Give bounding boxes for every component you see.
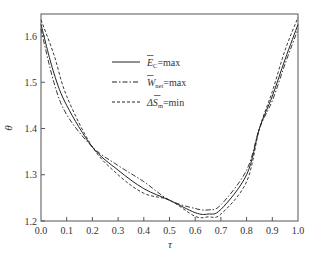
x-tick-label: 0.7 (215, 225, 228, 236)
x-tick-label: 1.0 (292, 225, 305, 236)
x-tick-label: 0.2 (86, 225, 99, 236)
series-line-dashed (41, 18, 298, 218)
x-tick-label: 0.3 (112, 225, 125, 236)
legend-label: ΔSm=min (146, 97, 184, 109)
y-axis: 1.21.31.41.51.6 (25, 31, 46, 227)
y-tick-label: 1.6 (25, 31, 38, 42)
x-tick-label: 0.9 (266, 225, 279, 236)
legend: EC=maxWnet=maxΔSm=min (112, 56, 186, 110)
y-axis-label: θ (2, 125, 14, 131)
x-tick-label: 0.8 (240, 225, 253, 236)
y-tick-label: 1.3 (25, 169, 38, 180)
plot-series (41, 18, 298, 218)
y-tick-label: 1.5 (25, 77, 38, 88)
y-tick-label: 1.4 (25, 123, 38, 134)
x-tick-label: 0.1 (60, 225, 73, 236)
series-line-solid (41, 24, 298, 214)
plot-frame (41, 14, 298, 221)
x-tick-label: 0.0 (35, 225, 48, 236)
legend-label: EC=max (146, 57, 180, 69)
y-tick-label: 1.2 (25, 216, 38, 227)
x-tick-label: 0.4 (138, 225, 151, 236)
x-tick-label: 0.6 (189, 225, 202, 236)
x-tick-label: 0.5 (163, 225, 176, 236)
x-axis: 0.00.10.20.30.40.50.60.70.80.91.0 (35, 217, 305, 236)
legend-label: Wnet=max (147, 77, 186, 89)
chart: 0.00.10.20.30.40.50.60.70.80.91.0 1.21.3… (0, 0, 314, 255)
x-axis-label: τ (168, 238, 173, 250)
